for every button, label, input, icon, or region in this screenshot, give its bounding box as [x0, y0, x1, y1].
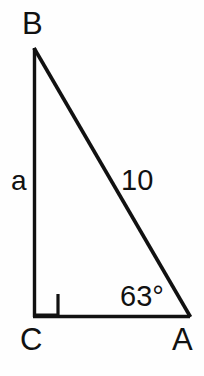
side-length-label-a: a — [11, 167, 27, 195]
angle-measure-label: 63° — [120, 282, 164, 311]
vertex-label-b: B — [22, 8, 43, 39]
vertex-label-a: A — [172, 324, 193, 355]
triangle-drawing — [0, 0, 204, 376]
vertex-label-c: C — [20, 324, 42, 355]
right-angle-marker-icon — [36, 294, 58, 315]
side-ba-hypotenuse-line — [34, 48, 191, 317]
geometry-figure: B C A a 10 63° — [0, 0, 204, 376]
side-length-label-hypotenuse: 10 — [121, 166, 153, 195]
